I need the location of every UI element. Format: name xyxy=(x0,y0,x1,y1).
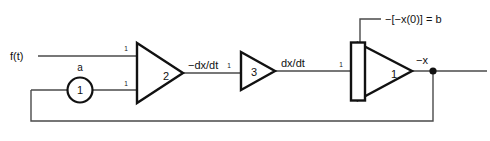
analog-computer-diagram: f(t) a 1 1 1 2 −dx/dt 1 3 dx/dt 1 1 −[−x… xyxy=(0,0,490,141)
integrator-initial-condition-label: −[−x(0)] = b xyxy=(385,13,442,25)
inverter-input-gain-label: 1 xyxy=(227,62,231,69)
integrator-output-label: −x xyxy=(416,54,428,66)
diagram-canvas: f(t) a 1 1 1 2 −dx/dt 1 3 dx/dt 1 1 −[−x… xyxy=(0,0,490,141)
integrator-number-label: 1 xyxy=(391,68,397,80)
inverter-output-label: dx/dt xyxy=(281,57,305,69)
integrator-input-gain-label: 1 xyxy=(339,61,343,68)
potentiometer-value-label: 1 xyxy=(77,84,83,96)
input-signal-label: f(t) xyxy=(10,50,23,62)
inverter-number-label: 3 xyxy=(251,66,257,78)
potentiometer-coefficient-label: a xyxy=(77,62,83,73)
summer-bottom-input-gain-label: 1 xyxy=(124,80,128,87)
summer-top-input-gain-label: 1 xyxy=(124,45,128,52)
wire-initial-condition xyxy=(360,19,381,44)
amplifier-summer-symbol[interactable] xyxy=(137,43,183,103)
output-junction-dot xyxy=(429,67,436,74)
summer-number-label: 2 xyxy=(163,70,169,82)
integrator-capacitor-bar[interactable] xyxy=(351,43,365,101)
summer-output-label: −dx/dt xyxy=(188,59,218,71)
amplifier-inverter-symbol[interactable] xyxy=(241,52,275,90)
